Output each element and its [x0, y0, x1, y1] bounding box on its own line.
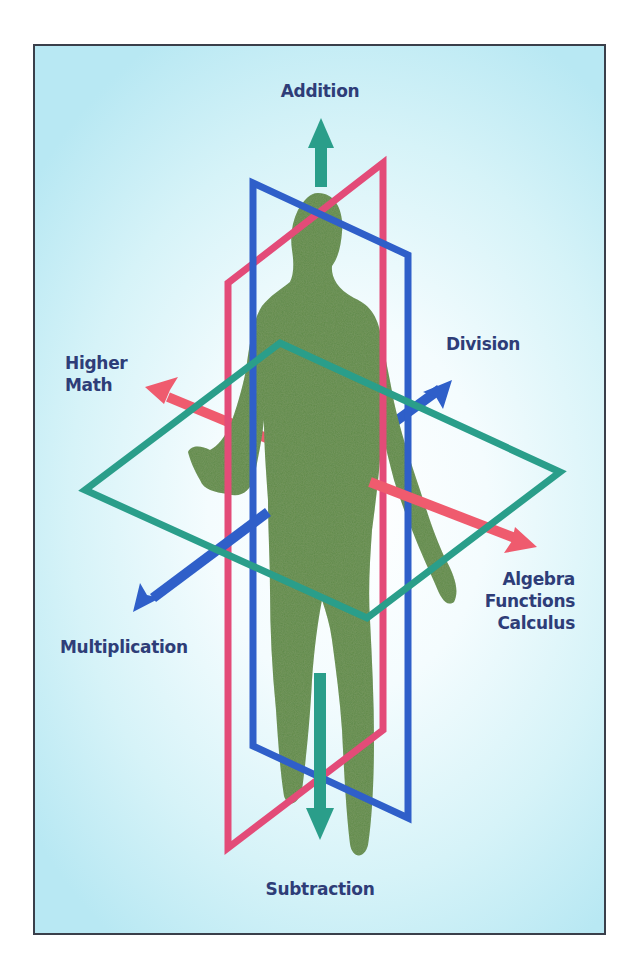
algebra-text: Algebra [470, 568, 575, 590]
label-algebra-functions-calculus: Algebra Functions Calculus [470, 568, 575, 634]
subtraction-text: Subtraction [265, 879, 374, 899]
body-planes-diagram [0, 0, 640, 974]
division-text: Division [446, 334, 520, 354]
functions-text: Functions [470, 590, 575, 612]
label-multiplication: Multiplication [60, 636, 188, 658]
label-division: Division [446, 333, 520, 355]
higher-text: Higher [65, 352, 127, 374]
addition-arrow-icon [308, 118, 334, 187]
addition-text: Addition [281, 81, 360, 101]
calculus-text: Calculus [470, 612, 575, 634]
multiplication-text: Multiplication [60, 637, 188, 657]
label-higher-math: Higher Math [65, 352, 127, 396]
label-addition: Addition [262, 80, 378, 102]
math-text: Math [65, 374, 127, 396]
label-subtraction: Subtraction [250, 878, 390, 900]
algebra-arrow-icon [370, 482, 537, 553]
